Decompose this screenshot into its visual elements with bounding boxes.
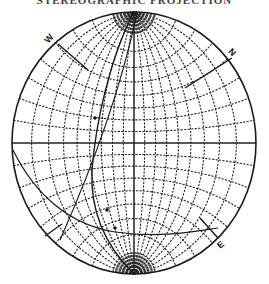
wulff-grid [12, 12, 256, 274]
stereonet: W N E [0, 0, 269, 284]
label-east: E [215, 239, 226, 251]
intersection-point-2 [105, 208, 109, 212]
label-west: W [42, 32, 55, 45]
intersection-point-3 [113, 226, 117, 230]
strike-line-n [185, 58, 232, 88]
intersection-point-1 [93, 116, 97, 120]
tick-lower-left [45, 224, 62, 236]
label-north: N [226, 46, 238, 58]
